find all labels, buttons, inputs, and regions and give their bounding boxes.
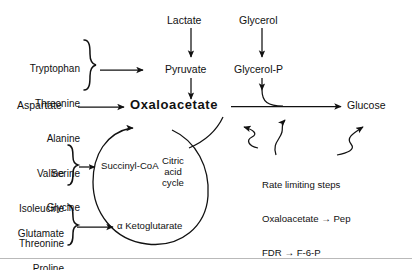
amino-acid-group-alpha-ketoglutarate-precursors: Glutamate Proline Histidine Arginine	[0, 205, 64, 270]
squiggle-arrow-middle-up	[275, 120, 285, 155]
aa-item: Proline	[0, 263, 64, 270]
rate-limiting-step: Oxaloacetate → Pep	[262, 213, 351, 224]
node-alpha-ketoglutarate: α Ketoglutarate	[117, 221, 182, 231]
rate-limiting-heading: Rate limiting steps	[262, 179, 351, 190]
gluconeogenesis-diagram: Lactate Pyruvate Glycerol Glycerol-P Oxa…	[0, 0, 412, 270]
aa-item: Glutamate	[0, 228, 64, 240]
aa-item: Alanine	[8, 133, 80, 145]
brace-aagroup1	[84, 40, 96, 90]
node-pyruvate: Pyruvate	[165, 64, 206, 75]
aa-item: Valine	[0, 168, 64, 180]
bottom-divider	[0, 258, 412, 259]
node-glycerol: Glycerol	[239, 15, 278, 26]
citric-acid-cycle-label: Citric acid cycle	[150, 155, 196, 188]
aa-item: Threonine	[8, 98, 80, 110]
rate-limiting-step: FDR → F-6-P	[262, 247, 351, 258]
aa-item: Tryptophan	[8, 63, 80, 75]
rate-limiting-steps-block: Rate limiting steps Oxaloacetate → Pep F…	[262, 156, 351, 270]
node-lactate: Lactate	[167, 15, 201, 26]
node-glucose: Glucose	[347, 100, 386, 111]
node-oxaloacetate: Oxaloacetate	[130, 98, 218, 112]
squiggle-arrow-to-oxaloacetate	[244, 127, 258, 148]
curve-oxaloacetate-reentry	[189, 117, 223, 148]
node-glycerol-p: Glycerol-P	[234, 64, 283, 75]
squiggle-arrow-to-glucose	[337, 127, 363, 155]
curve-glycerolp-join	[262, 90, 283, 106]
